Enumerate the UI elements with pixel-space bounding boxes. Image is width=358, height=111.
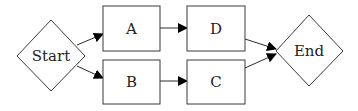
flowchart-canvas: Start A B D C End — [0, 0, 358, 111]
end-label: End — [294, 42, 325, 60]
node-b[interactable]: B — [103, 60, 160, 104]
edge-start-to-b — [77, 66, 103, 78]
c-label: C — [210, 73, 221, 91]
a-label: A — [125, 20, 137, 38]
b-label: B — [126, 73, 137, 91]
node-a[interactable]: A — [103, 6, 160, 51]
start-label: Start — [32, 47, 70, 65]
node-c[interactable]: C — [187, 60, 245, 104]
edge-start-to-a — [77, 34, 103, 45]
d-label: D — [210, 20, 222, 38]
node-d[interactable]: D — [187, 6, 245, 51]
node-start[interactable]: Start — [17, 20, 85, 91]
node-end[interactable]: End — [276, 15, 343, 86]
edge-c-to-end — [245, 54, 276, 68]
edge-d-to-end — [245, 39, 276, 49]
